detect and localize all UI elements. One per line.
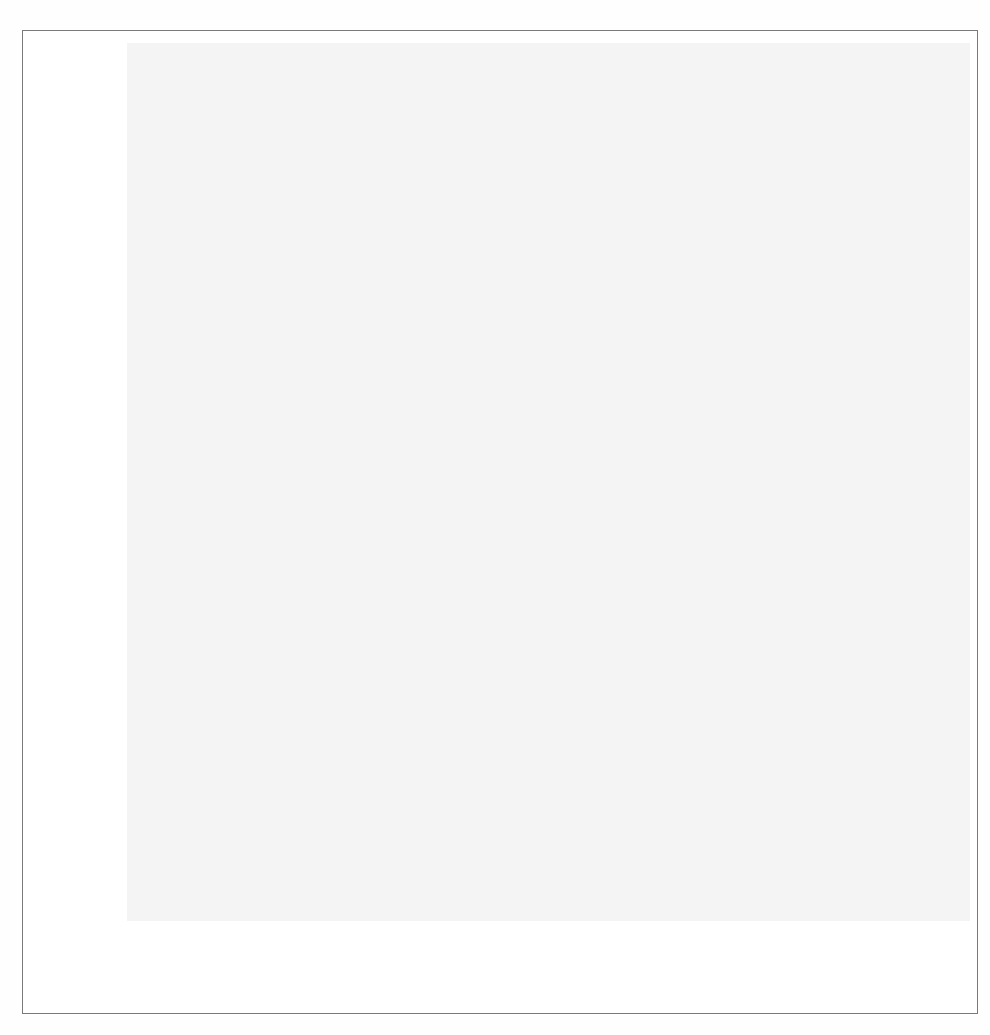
plot-panel xyxy=(127,43,970,921)
y-axis-ticks xyxy=(62,30,110,1014)
density-curve xyxy=(127,43,970,921)
density-plot xyxy=(22,30,978,1014)
y-axis-title xyxy=(20,30,60,1014)
scanned-page xyxy=(0,0,990,1035)
